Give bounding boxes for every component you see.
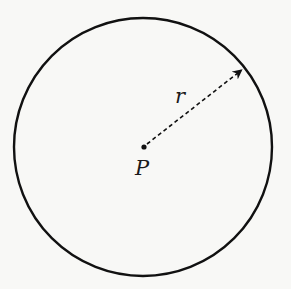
center-point: [141, 144, 146, 149]
diagram-canvas: r P: [0, 0, 291, 289]
circle-diagram: r P: [0, 0, 291, 289]
radius-arrow: [147, 71, 241, 145]
radius-label: r: [175, 84, 187, 108]
center-label: P: [134, 156, 150, 180]
